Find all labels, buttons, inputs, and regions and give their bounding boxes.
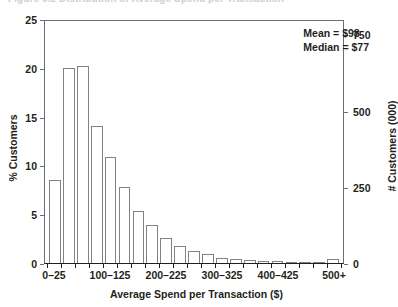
bar [174, 246, 186, 263]
bar [77, 66, 89, 263]
cropped-caption-sliver: Figure 6.2 Distribution of Average Spend… [0, 0, 393, 9]
x-axis-tick-mark [145, 264, 146, 268]
x-axis-tick-mark [173, 264, 174, 268]
bar [202, 254, 214, 263]
x-axis-tick-labels: 0–25100–125200–225300–325400–425500+ [0, 269, 393, 285]
x-axis-tick-label: 100–125 [90, 269, 131, 281]
bar [258, 261, 270, 263]
x-axis-tick-mark [327, 264, 328, 268]
bar [146, 225, 158, 263]
bar [63, 68, 75, 263]
bar [272, 261, 284, 263]
bar [327, 259, 339, 263]
y-axis-left: % Customers 0510152025 [0, 0, 44, 307]
bar [230, 259, 242, 263]
x-axis-tick-mark [61, 264, 62, 268]
x-axis-tick-mark [47, 264, 48, 268]
x-axis-tick-mark [131, 264, 132, 268]
x-axis-tick-mark [159, 264, 160, 268]
x-axis-tick-mark [75, 264, 76, 268]
bar [286, 262, 298, 263]
x-axis-title: Average Spend per Transaction ($) [0, 288, 393, 300]
y-axis-right-tick-mark [344, 112, 348, 113]
mean-annotation: Mean = $98 [303, 26, 369, 40]
x-axis-tick-mark [299, 264, 300, 268]
y-axis-left-tick-label: 10 [25, 160, 37, 172]
x-axis-tick-mark [89, 264, 90, 268]
y-axis-right-tick-mark [344, 264, 348, 265]
cropped-caption-text: Figure 6.2 Distribution of Average Spend… [8, 0, 284, 4]
bar [119, 187, 131, 263]
x-axis-tick-label: 200–225 [146, 269, 187, 281]
y-axis-left-tick-label: 5 [31, 209, 37, 221]
x-axis-tick-mark [229, 264, 230, 268]
x-axis-tick-mark [243, 264, 244, 268]
y-axis-right-tick-label: 250 [353, 182, 371, 194]
plot-area [44, 20, 344, 264]
bar [160, 238, 172, 263]
bar [49, 180, 61, 263]
bar [313, 262, 325, 263]
bar [91, 126, 103, 263]
x-axis-tick-mark [313, 264, 314, 268]
x-axis-tick-mark [341, 264, 342, 268]
x-axis-tick-mark [117, 264, 118, 268]
y-axis-right-tick-label: 500 [353, 106, 371, 118]
y-axis-right-tick-mark [344, 188, 348, 189]
x-axis-tick-mark [215, 264, 216, 268]
y-axis-left-tick-label: 20 [25, 63, 37, 75]
bar [105, 157, 117, 263]
bar [188, 251, 200, 263]
x-axis-tick-label: 400–425 [258, 269, 299, 281]
y-axis-left-label: % Customers [7, 88, 19, 208]
x-axis-tick-mark [187, 264, 188, 268]
bar-series [45, 21, 343, 263]
x-axis-tick-mark [271, 264, 272, 268]
bar [244, 260, 256, 263]
y-axis-right-label: # Customers (000) [386, 76, 398, 216]
bar [133, 211, 145, 263]
median-annotation: Median = $77 [303, 40, 369, 54]
bar [216, 258, 228, 263]
bar [299, 262, 311, 263]
y-axis-left-tick-label: 25 [25, 14, 37, 26]
stats-annotation: Mean = $98 Median = $77 [303, 26, 369, 54]
x-axis-tick-mark [257, 264, 258, 268]
y-axis-left-tick-label: 15 [25, 112, 37, 124]
x-axis-tick-mark [285, 264, 286, 268]
x-axis-tick-label: 0–25 [42, 269, 65, 281]
x-axis-tick-mark [103, 264, 104, 268]
x-axis-tick-mark [201, 264, 202, 268]
x-axis-tick-label: 300–325 [202, 269, 243, 281]
x-axis-tick-label: 500+ [322, 269, 346, 281]
